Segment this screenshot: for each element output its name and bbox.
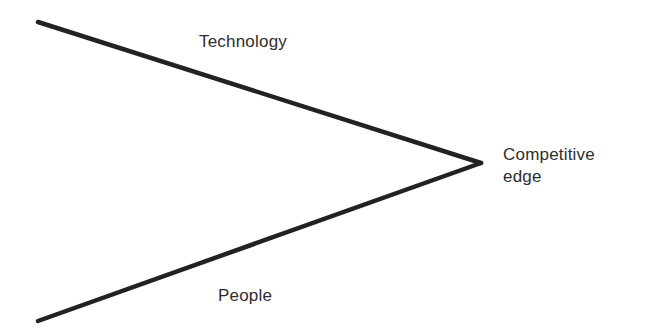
competitive-edge-label: Competitive edge	[503, 144, 595, 188]
people-label: People	[218, 285, 272, 307]
technology-label: Technology	[199, 31, 287, 53]
competitive-edge-line2: edge	[503, 166, 595, 188]
diagram-canvas: Technology People Competitive edge	[0, 0, 652, 336]
competitive-edge-line1: Competitive	[503, 144, 595, 166]
